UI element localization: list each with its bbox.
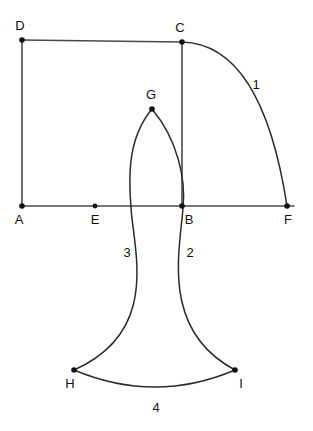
- point-label-d: D: [15, 18, 24, 33]
- vertex-dot-h: [71, 367, 77, 373]
- arc-label-2: 2: [186, 245, 193, 260]
- arc-label-1: 1: [252, 77, 259, 92]
- geometry-canvas: A B C D E F G H I 1 2 3 4: [0, 0, 313, 431]
- point-label-a: A: [15, 212, 24, 227]
- arc-1-cf: [182, 42, 287, 206]
- point-label-b: B: [185, 212, 194, 227]
- arc-group: [74, 42, 287, 387]
- arc-label-4: 4: [152, 400, 159, 415]
- vertex-dot-b: [179, 203, 185, 209]
- vertex-dot-c: [179, 39, 185, 45]
- point-label-f: F: [284, 212, 292, 227]
- point-label-c: C: [175, 20, 184, 35]
- geometry-diagram: A B C D E F G H I 1 2 3 4: [0, 0, 313, 431]
- vertex-dot-d: [19, 37, 25, 43]
- point-label-e: E: [91, 212, 100, 227]
- vertex-dot-f: [284, 203, 290, 209]
- point-label-group: A B C D E F G H I: [15, 18, 292, 391]
- segment-dc: [22, 40, 182, 42]
- segment-group: [22, 40, 294, 206]
- arc-3-gh: [74, 109, 152, 370]
- arc-4-hi: [74, 370, 235, 387]
- vertex-dot-e: [93, 204, 98, 209]
- arc-label-group: 1 2 3 4: [123, 77, 259, 415]
- point-label-i: I: [239, 376, 243, 391]
- vertex-dot-a: [19, 203, 25, 209]
- vertex-dot-g: [149, 106, 155, 112]
- arc-label-3: 3: [123, 245, 130, 260]
- vertex-dot-i: [232, 367, 238, 373]
- arc-2-gi: [152, 109, 235, 370]
- point-label-h: H: [65, 376, 74, 391]
- point-label-g: G: [146, 87, 156, 102]
